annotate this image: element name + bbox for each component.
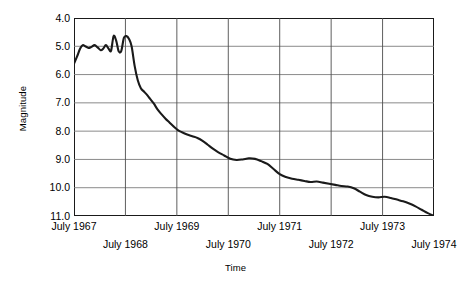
x-tick-label: July 1973 xyxy=(360,220,405,232)
x-tick-label: July 1970 xyxy=(206,238,251,250)
x-tick-label: July 1971 xyxy=(257,220,302,232)
x-tick-label: July 1967 xyxy=(52,220,97,232)
x-tick-label: July 1968 xyxy=(103,238,148,250)
light-curve-chart: Magnitude 4.05.06.07.08.09.010.011.0 Jul… xyxy=(0,0,471,286)
x-tick-label: July 1972 xyxy=(309,238,354,250)
x-axis-tick-labels: July 1967July 1968July 1969July 1970July… xyxy=(0,0,471,286)
x-tick-label: July 1974 xyxy=(412,238,457,250)
x-axis-title: Time xyxy=(0,262,471,273)
x-tick-label: July 1969 xyxy=(154,220,199,232)
